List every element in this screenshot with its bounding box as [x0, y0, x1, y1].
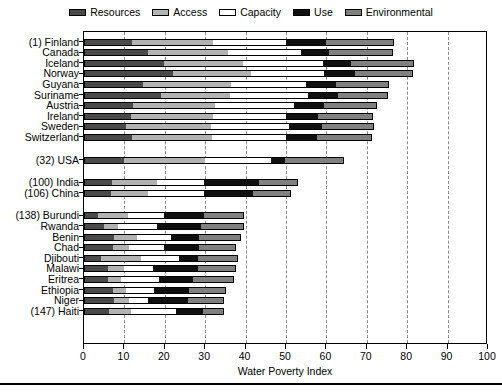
bars-layer	[84, 32, 486, 343]
x-axis-tick-label: 20	[158, 350, 170, 362]
bar-row	[84, 81, 486, 88]
bar-segment-use	[286, 134, 317, 141]
bar-segment-resources	[84, 223, 104, 230]
x-axis-tick-label: 90	[441, 350, 453, 362]
bar-segment-access	[132, 134, 212, 141]
bar-segment-environmental	[318, 113, 373, 120]
bar-row	[84, 60, 486, 67]
legend-label: Capacity	[240, 6, 281, 18]
bar-segment-access	[124, 157, 205, 164]
bar-segment-capacity	[228, 49, 301, 56]
bar-segment-use	[164, 212, 204, 219]
bar-segment-environmental	[338, 92, 388, 99]
bar-segment-environmental	[198, 265, 236, 272]
bar-segment-capacity	[118, 223, 158, 230]
bar-segment-environmental	[203, 308, 224, 315]
bar-segment-environmental	[201, 223, 245, 230]
legend-item-capacity: Capacity	[219, 6, 281, 18]
bar-row	[84, 234, 486, 241]
legend-label: Use	[314, 6, 333, 18]
bar-segment-capacity	[243, 60, 323, 67]
legend-label: Resources	[90, 6, 140, 18]
bar-segment-resources	[84, 123, 126, 130]
bar-row	[84, 113, 486, 120]
bar-segment-environmental	[199, 234, 241, 241]
bar-segment-use	[324, 70, 356, 77]
bar-segment-resources	[84, 244, 113, 251]
bar-segment-use	[286, 39, 326, 46]
bar-segment-environmental	[188, 297, 224, 304]
bar-segment-capacity	[212, 134, 286, 141]
bar-segment-resources	[84, 297, 114, 304]
legend-item-resources: Resources	[69, 6, 140, 18]
bar-row	[84, 39, 486, 46]
bar-segment-use	[176, 308, 203, 315]
x-axis-tick-100	[487, 344, 488, 349]
bar-segment-capacity	[121, 276, 159, 283]
y-axis-label: (32) USA	[0, 155, 79, 166]
bar-segment-capacity	[148, 190, 204, 197]
bar-segment-environmental	[198, 255, 238, 262]
bar-segment-environmental	[193, 276, 235, 283]
bar-row	[84, 49, 486, 56]
x-axis-tick-label: 50	[279, 350, 291, 362]
bar-segment-access	[113, 287, 126, 294]
legend-item-environmental: Environmental	[345, 6, 433, 18]
bar-segment-use	[286, 113, 318, 120]
x-axis-tick-label: 40	[239, 350, 251, 362]
bar-segment-resources	[84, 70, 173, 77]
bar-row	[84, 123, 486, 130]
x-axis-ticks	[83, 344, 487, 349]
legend-swatch-capacity	[219, 9, 236, 16]
bar-row	[84, 92, 486, 99]
bar-segment-capacity	[137, 234, 171, 241]
bar-segment-environmental	[326, 39, 394, 46]
bar-segment-use	[171, 234, 199, 241]
bar-segment-environmental	[189, 287, 226, 294]
bar-segment-resources	[84, 60, 164, 67]
bar-segment-use	[204, 190, 253, 197]
bar-segment-resources	[84, 276, 108, 283]
bar-segment-resources	[84, 287, 113, 294]
x-axis-tick-60	[325, 344, 326, 349]
bar-segment-capacity	[230, 92, 308, 99]
bar-segment-environmental	[285, 157, 344, 164]
bar-segment-capacity	[129, 297, 148, 304]
bar-segment-capacity	[205, 157, 271, 164]
bar-row	[84, 190, 486, 197]
bar-segment-use	[294, 102, 324, 109]
legend-item-use: Use	[293, 6, 333, 18]
bar-segment-use	[301, 49, 329, 56]
y-axis-label: (106) China	[0, 188, 79, 199]
bar-segment-resources	[84, 113, 131, 120]
bar-segment-environmental	[253, 190, 291, 197]
bar-segment-environmental	[336, 81, 389, 88]
bar-row	[84, 244, 486, 251]
bar-segment-access	[161, 92, 230, 99]
bar-segment-access	[108, 265, 125, 272]
legend-label: Access	[173, 6, 207, 18]
bar-segment-capacity	[126, 287, 154, 294]
bar-segment-environmental	[355, 70, 413, 77]
bar-segment-resources	[84, 255, 101, 262]
bar-segment-environmental	[317, 134, 372, 141]
bar-segment-resources	[84, 234, 114, 241]
x-axis-tick-50	[285, 344, 286, 349]
x-axis-tick-10	[123, 344, 124, 349]
bar-segment-access	[164, 60, 242, 67]
bar-segment-capacity	[129, 244, 164, 251]
x-axis-tick-label: 60	[320, 350, 332, 362]
bar-segment-capacity	[213, 113, 287, 120]
bar-segment-capacity	[211, 123, 289, 130]
bar-segment-environmental	[259, 179, 297, 186]
legend-label: Environmental	[366, 6, 433, 18]
x-axis-tick-90	[447, 344, 448, 349]
water-poverty-index-chart: ResourcesAccessCapacityUseEnvironmental …	[0, 0, 502, 392]
bar-segment-capacity	[131, 308, 176, 315]
bar-row	[84, 212, 486, 219]
bar-segment-access	[101, 255, 141, 262]
x-axis-tick-label: 100	[478, 350, 496, 362]
x-axis-tick-labels: 0102030405060708090100	[0, 350, 502, 364]
bar-segment-use	[159, 276, 193, 283]
bar-segment-access	[113, 244, 130, 251]
